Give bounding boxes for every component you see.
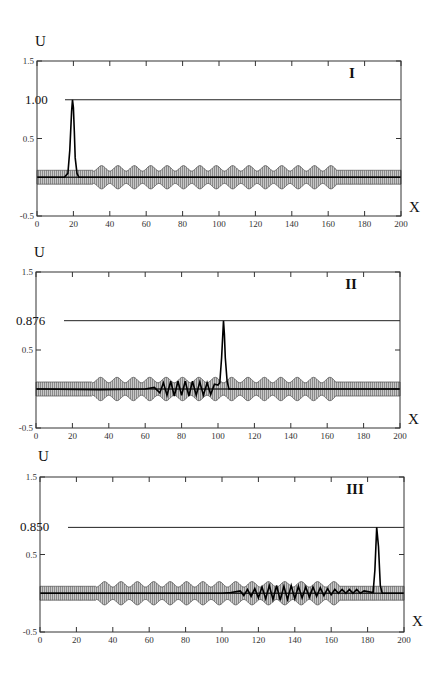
x-tick-label: 180 xyxy=(357,431,371,441)
y-tick-label: 1.5 xyxy=(26,472,38,482)
x-tick-label: 140 xyxy=(284,431,298,441)
x-axis-name: X xyxy=(409,199,420,215)
x-tick-label: 160 xyxy=(320,431,334,441)
x-tick-label: 0 xyxy=(35,219,40,229)
x-tick-label: 40 xyxy=(108,635,118,645)
peak-value-label: 1.00 xyxy=(25,92,48,107)
x-tick-label: 80 xyxy=(177,431,187,441)
panel-ii: 0.8760204060801001201401601802001.50.5-0… xyxy=(16,244,419,441)
figure: 1.000204060801001201401601802001.50.5-0.… xyxy=(0,0,444,676)
x-tick-label: 200 xyxy=(397,635,411,645)
x-tick-label: 40 xyxy=(104,431,114,441)
x-tick-label: 160 xyxy=(321,219,335,229)
x-tick-label: 180 xyxy=(358,219,372,229)
peak-value-label: 0.850 xyxy=(20,519,49,534)
x-axis-name: X xyxy=(412,613,423,629)
y-tick-label: 0.5 xyxy=(26,550,38,560)
panel-label: III xyxy=(346,481,364,497)
x-tick-label: 80 xyxy=(178,219,188,229)
plot-frame xyxy=(36,272,400,428)
x-tick-label: 40 xyxy=(105,219,115,229)
x-tick-label: 80 xyxy=(181,635,191,645)
x-tick-label: 200 xyxy=(394,219,408,229)
x-tick-label: 100 xyxy=(212,219,226,229)
x-tick-label: 20 xyxy=(72,635,82,645)
y-tick-label: 1.5 xyxy=(23,56,35,66)
x-tick-label: 200 xyxy=(393,431,407,441)
x-tick-label: 60 xyxy=(142,219,152,229)
x-tick-label: 160 xyxy=(324,635,338,645)
panel-label: II xyxy=(345,276,357,292)
y-tick-label: 0.5 xyxy=(23,134,35,144)
panel-i: 1.000204060801001201401601802001.50.5-0.… xyxy=(20,33,420,229)
x-tick-label: 140 xyxy=(288,635,302,645)
x-tick-label: 120 xyxy=(248,431,262,441)
x-tick-label: 180 xyxy=(361,635,375,645)
x-axis-name: X xyxy=(408,411,419,427)
peak-value-label: 0.876 xyxy=(16,313,46,328)
y-tick-label: 1.5 xyxy=(22,267,34,277)
x-tick-label: 20 xyxy=(68,431,78,441)
y-tick-label: -0.5 xyxy=(20,211,35,221)
x-tick-label: 60 xyxy=(145,635,155,645)
panel-iii: 0.8500204060801001201401601802001.50.5-0… xyxy=(20,448,423,645)
y-axis-name: U xyxy=(34,244,45,260)
plot-frame xyxy=(40,477,404,632)
soliton-curve xyxy=(37,100,401,178)
x-tick-label: 60 xyxy=(141,431,151,441)
y-axis-name: U xyxy=(35,33,46,49)
x-tick-label: 100 xyxy=(211,431,225,441)
plot-frame xyxy=(37,61,401,216)
x-tick-label: 0 xyxy=(38,635,43,645)
x-tick-label: 0 xyxy=(34,431,39,441)
panel-label: I xyxy=(349,65,355,81)
y-tick-label: 0.5 xyxy=(22,345,34,355)
y-tick-label: -0.5 xyxy=(23,627,38,637)
x-tick-label: 120 xyxy=(249,219,263,229)
x-tick-label: 140 xyxy=(285,219,299,229)
x-tick-label: 20 xyxy=(69,219,79,229)
y-axis-name: U xyxy=(38,448,49,464)
x-tick-label: 100 xyxy=(215,635,229,645)
y-tick-label: -0.5 xyxy=(19,423,34,433)
x-tick-label: 120 xyxy=(252,635,266,645)
